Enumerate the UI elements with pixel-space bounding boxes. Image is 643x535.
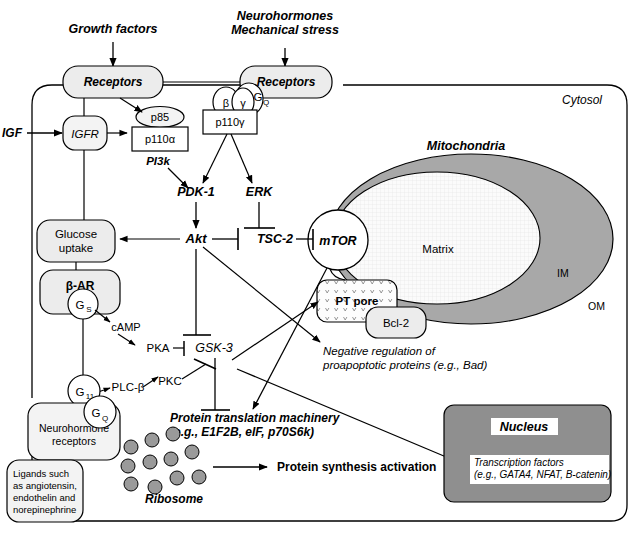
pkc-label[interactable]: PKC — [158, 375, 182, 387]
ribosome-dot — [121, 459, 135, 473]
tsc2-label[interactable]: TSC-2 — [257, 232, 293, 246]
bcl2-label: Bcl-2 — [383, 317, 409, 329]
ribosome-dot — [166, 427, 180, 441]
erk-inhibits-tsc2-bar — [244, 202, 275, 228]
ribosome-dot — [145, 433, 159, 447]
p110alpha-node[interactable]: p110α — [132, 127, 188, 151]
ligands-line1: Ligands such — [13, 468, 69, 479]
p110gamma-node[interactable]: p110γ — [203, 110, 257, 134]
ribosome-label: Ribosome — [145, 492, 203, 506]
p110alpha-label: p110α — [145, 133, 176, 145]
protein-synthesis-label: Protein synthesis activation — [277, 460, 436, 474]
neurohormones-label-line1: Neurohormones — [237, 9, 334, 23]
gq-top-subscript: Q — [263, 98, 269, 107]
mtor-label: mTOR — [319, 234, 356, 248]
plcb-to-pkc-arrow — [143, 377, 158, 387]
ribosome-dot — [124, 440, 138, 454]
gs-subscript: S — [86, 305, 91, 314]
negative-regulation-line1: Negative regulation of — [323, 345, 437, 357]
ribosome-dot — [185, 445, 199, 459]
p85-label: p85 — [151, 111, 169, 123]
glucose-uptake-line2: uptake — [59, 242, 94, 254]
pdk1-label[interactable]: PDK-1 — [177, 185, 215, 199]
translation-machinery-line2: (e.g., E1F2B, eIF, p70S6k) — [170, 425, 314, 439]
ribosome-dot — [164, 452, 178, 466]
neurohormone-receptors-line2: receptors — [52, 435, 96, 447]
glucose-uptake-node[interactable]: Glucose uptake — [37, 220, 115, 262]
pt-pore-label: PT pore — [336, 295, 379, 307]
pathway-diagram-canvas: Mitochondria Matrix IM OM Cytosol Growth… — [0, 0, 643, 535]
outer-membrane-label: OM — [588, 300, 605, 312]
akt-inhibits-gsk3-bar — [183, 249, 211, 335]
translation-machinery-line1: Protein translation machinery — [170, 411, 341, 425]
gq-bottom-label: G — [92, 407, 101, 419]
ribosome-dot — [124, 477, 138, 491]
gq-bottom-subscript: Q — [102, 414, 108, 423]
receptor-right-label: Receptors — [257, 75, 316, 89]
cytosol-label: Cytosol — [562, 93, 602, 107]
nucleus-box[interactable]: Nucleus Transcription factors (e.g., GAT… — [444, 405, 611, 502]
camp-to-pka-arrow — [118, 334, 135, 345]
neurohormones-label-line2: Mechanical stress — [231, 23, 339, 37]
negative-regulation-line2: proapoptotic proteins (e.g., Bad) — [322, 359, 487, 371]
gs-protein-node: G S — [68, 289, 98, 319]
pi3k-label: PI3k — [146, 155, 170, 167]
mtor-node[interactable]: mTOR — [308, 210, 368, 270]
ligands-line2: as angiotensin, — [13, 480, 77, 491]
gsk3-label[interactable]: GSK-3 — [195, 341, 233, 355]
g-beta-label: β — [223, 97, 229, 109]
gq-top-label: G — [254, 91, 263, 103]
ligands-line3: endothelin and — [13, 492, 75, 503]
growth-factors-label: Growth factors — [69, 22, 158, 36]
igfr-text: IGFR — [71, 128, 98, 140]
erk-label[interactable]: ERK — [246, 185, 273, 199]
bcl2-node[interactable]: Bcl-2 — [366, 307, 426, 338]
akt-inhibits-tsc2-bar — [212, 228, 238, 250]
g11-label: G — [76, 386, 85, 398]
inner-membrane-label: IM — [557, 267, 569, 279]
ribosome-dot — [170, 471, 184, 485]
receptor-left-label: Receptors — [84, 75, 143, 89]
camp-label[interactable]: cAMP — [111, 321, 140, 333]
gs-label: G — [76, 299, 85, 311]
ribosome-dot — [192, 470, 206, 484]
gq-bottom-protein-node: G Q — [84, 396, 116, 428]
glucose-uptake-line1: Glucose — [55, 228, 97, 240]
transcription-factors-line2: (e.g., GATA4, NFAT, B-catenin) — [474, 469, 611, 480]
ligands-line4: norepinephrine — [13, 504, 76, 515]
receptor-left[interactable]: Receptors — [63, 66, 163, 98]
ligands-box: Ligands such as angiotensin, endothelin … — [7, 460, 83, 522]
pkc-inhibits-gsk3-bar — [182, 359, 216, 379]
ribosome-dot — [143, 455, 157, 469]
plcb-label[interactable]: PLC-β — [112, 381, 145, 393]
akt-to-negative-regulation-arrow — [203, 247, 320, 342]
p85-node[interactable]: p85 — [136, 107, 184, 128]
nucleus-label: Nucleus — [500, 420, 549, 434]
receptor-to-p85-arrow — [120, 98, 142, 112]
p110gamma-to-pdk1-arrow — [203, 134, 227, 183]
p110gamma-to-erk-arrow — [231, 134, 252, 183]
gsk3-inhibits-translation-bar — [201, 358, 230, 410]
akt-label[interactable]: Akt — [185, 231, 208, 246]
matrix-label: Matrix — [422, 243, 454, 255]
p110gamma-label: p110γ — [215, 116, 245, 128]
pka-label[interactable]: PKA — [146, 342, 169, 354]
transcription-factors-line1: Transcription factors — [474, 457, 564, 468]
g-gamma-label: γ — [240, 97, 246, 109]
pka-inhibits-gsk3-bar — [173, 341, 184, 356]
igf-label: IGF — [2, 126, 23, 140]
mitochondria-label: Mitochondria — [427, 139, 506, 153]
